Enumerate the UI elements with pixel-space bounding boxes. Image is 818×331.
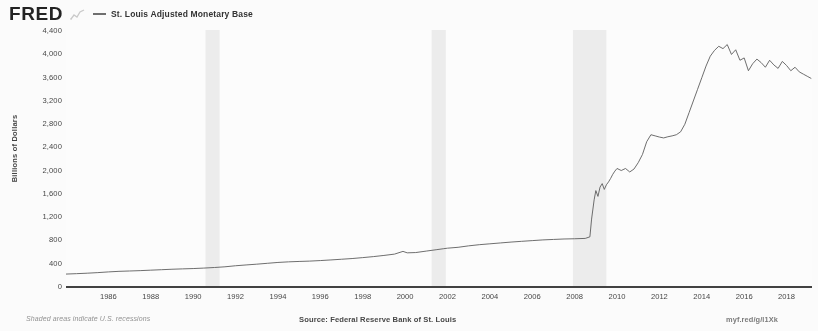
x-axis-tick: 2012 bbox=[651, 292, 668, 301]
y-axis-tick: 1,200 bbox=[18, 212, 62, 221]
legend-series-label: St. Louis Adjusted Monetary Base bbox=[111, 9, 253, 19]
x-axis-tick: 2004 bbox=[481, 292, 498, 301]
mini-line-chart-icon bbox=[70, 9, 85, 21]
chart-legend[interactable]: St. Louis Adjusted Monetary Base bbox=[93, 7, 253, 20]
recession-note: Shaded areas indicate U.S. recessions bbox=[26, 315, 150, 322]
x-axis-tick: 1990 bbox=[185, 292, 202, 301]
recession-band bbox=[573, 30, 606, 286]
series-line-chart bbox=[66, 30, 812, 286]
chart-footer: Shaded areas indicate U.S. recessions So… bbox=[0, 311, 818, 331]
x-axis-tick: 1988 bbox=[142, 292, 159, 301]
permalink-label[interactable]: myf.red/g/l1Xk bbox=[726, 315, 778, 324]
y-axis-tick: 800 bbox=[18, 235, 62, 244]
y-axis-tick: 2,800 bbox=[18, 119, 62, 128]
source-note: Source: Federal Reserve Bank of St. Loui… bbox=[299, 315, 456, 324]
x-axis-tick: 1996 bbox=[312, 292, 329, 301]
line-swatch-icon bbox=[93, 13, 106, 15]
x-axis-tick: 2008 bbox=[566, 292, 583, 301]
x-axis-tick: 2014 bbox=[693, 292, 710, 301]
recession-band bbox=[205, 30, 219, 286]
x-axis-tick: 2018 bbox=[778, 292, 795, 301]
fred-chart-page: FRED St. Louis Adjusted Monetary Base Bi… bbox=[0, 0, 818, 331]
x-axis-tick: 2000 bbox=[397, 292, 414, 301]
plot-canvas[interactable] bbox=[66, 30, 812, 286]
x-axis-tick: 1994 bbox=[269, 292, 286, 301]
chart-header: FRED St. Louis Adjusted Monetary Base bbox=[0, 0, 818, 26]
x-axis-tick: 2010 bbox=[609, 292, 626, 301]
recession-bands bbox=[205, 30, 606, 286]
y-axis-tick: 4,400 bbox=[18, 26, 62, 35]
x-axis-tick: 1986 bbox=[100, 292, 117, 301]
plot-area-wrapper: Billions of Dollars 04008001,2001,6002,0… bbox=[0, 26, 818, 311]
x-axis-tick: 2002 bbox=[439, 292, 456, 301]
x-axis-tick: 1992 bbox=[227, 292, 244, 301]
y-axis-tick: 2,000 bbox=[18, 165, 62, 174]
y-axis-tick: 3,200 bbox=[18, 95, 62, 104]
y-axis-tick: 3,600 bbox=[18, 72, 62, 81]
y-axis-tick-labels: 04008001,2001,6002,0002,4002,8003,2003,6… bbox=[14, 26, 62, 311]
y-axis-tick: 1,600 bbox=[18, 188, 62, 197]
x-axis-tick: 2006 bbox=[524, 292, 541, 301]
y-axis-tick: 2,400 bbox=[18, 142, 62, 151]
x-axis-line bbox=[66, 286, 812, 288]
y-axis-tick: 4,000 bbox=[18, 49, 62, 58]
x-axis-tick: 1998 bbox=[354, 292, 371, 301]
y-axis-tick: 400 bbox=[18, 258, 62, 267]
recession-band bbox=[432, 30, 446, 286]
fred-logo: FRED bbox=[9, 4, 63, 23]
y-axis-tick: 0 bbox=[18, 282, 62, 291]
x-axis-tick: 2016 bbox=[736, 292, 753, 301]
